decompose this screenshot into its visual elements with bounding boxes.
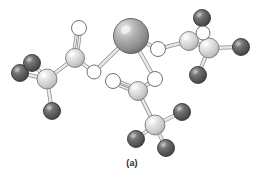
atom-oxygen-o3: [151, 42, 166, 57]
atom-hydrogen-h2: [24, 55, 41, 72]
molecular-figure: (a): [0, 0, 264, 189]
atom-oxygen-o5: [148, 72, 163, 87]
atom-oxygen-o1: [72, 21, 87, 36]
atom-carbon-c2: [37, 69, 57, 89]
figure-caption: (a): [0, 158, 264, 168]
atom-oxygen-o2: [87, 65, 101, 79]
atom-hydrogen-h7: [174, 104, 191, 121]
atom-hydrogen-h5: [233, 39, 250, 56]
atom-hydrogen-h9: [158, 140, 175, 157]
atom-carbon-c4: [199, 38, 219, 58]
atom-hydrogen-h4: [194, 10, 211, 27]
atom-oxygen-o6: [106, 74, 121, 89]
atom-carbon-c6: [145, 115, 165, 135]
atom-carbon-c1: [66, 49, 85, 68]
atom-layer: [12, 10, 250, 157]
atom-metal-m1: [114, 19, 149, 54]
atom-carbon-c5: [129, 82, 148, 101]
atom-oxygen-o4: [196, 26, 210, 40]
atom-hydrogen-h6: [190, 67, 207, 84]
atom-hydrogen-h3: [44, 103, 61, 120]
atom-hydrogen-h8: [128, 131, 145, 148]
